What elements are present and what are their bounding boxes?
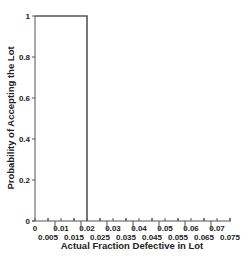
x-tick-label: 0: [33, 224, 38, 233]
y-tick-label: 0.6: [19, 94, 31, 103]
y-tick-label: 0.4: [19, 135, 31, 144]
y-tick-label: 1: [26, 12, 31, 21]
x-tick-label: 0.04: [131, 224, 147, 233]
x-tick-label: 0.03: [105, 224, 121, 233]
x-ticks: 00.010.020.030.040.050.060.070.0050.0150…: [33, 218, 241, 242]
x-tick-label: 0.06: [183, 224, 199, 233]
y-ticks: 00.20.40.60.81: [19, 12, 35, 226]
oc-curve-line: [35, 16, 87, 221]
x-tick-label: 0.05: [157, 224, 173, 233]
chart-canvas: 00.20.40.60.81 00.010.020.030.040.050.06…: [0, 0, 249, 265]
x-tick-label: 0.005: [38, 233, 59, 242]
oc-curve-chart: 00.20.40.60.81 00.010.020.030.040.050.06…: [0, 0, 249, 265]
x-tick-label: 0.07: [209, 224, 225, 233]
x-tick-label: 0.01: [53, 224, 69, 233]
x-tick-label: 0.02: [79, 224, 95, 233]
x-axis-label: Actual Fraction Defective in Lot: [61, 240, 204, 251]
y-tick-label: 0.2: [19, 176, 31, 185]
y-tick-label: 0: [26, 217, 31, 226]
x-tick-label: 0.075: [220, 233, 241, 242]
y-axis-label: Probability of Accepting the Lot: [5, 46, 16, 190]
y-tick-label: 0.8: [19, 53, 31, 62]
